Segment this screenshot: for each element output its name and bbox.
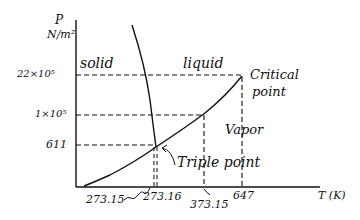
x-tick-647: 647 [233,190,254,201]
y-tick-611: 611 [46,139,67,150]
x-axis-label: T (K) [318,190,346,201]
y-axis-label-unit: N/m² [47,29,75,40]
x-tick-27316: 273.16 [143,191,182,202]
tick-pointer-37315 [204,189,210,195]
y-tick-22e5: 22×10⁵ [17,69,55,79]
region-liquid: liquid [183,56,223,70]
critical-point-label-2: point [252,85,286,98]
y-axis-label-p: P [55,14,63,26]
fusion-curve [132,25,156,147]
region-solid: solid [80,56,114,70]
critical-point-label-1: Critical [250,68,299,81]
sublimation-curve [84,147,156,186]
x-tick-37315: 373.15 [190,199,229,210]
x-tick-27315: 273.15 [86,194,125,205]
triple-point-label: Triple point [177,155,260,169]
y-tick-1e5: 1×10⁵ [35,109,66,119]
region-vapor: Vapor [225,123,263,136]
